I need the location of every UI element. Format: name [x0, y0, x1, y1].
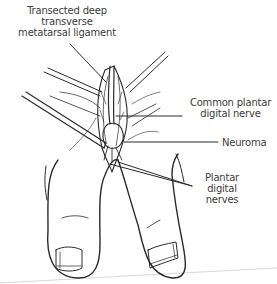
label-line: nerves — [196, 194, 248, 205]
leader-line-ligament — [70, 44, 106, 82]
label-line: Neuroma — [222, 137, 277, 148]
incision-wound — [98, 66, 127, 172]
skin-contour — [128, 131, 158, 140]
skin-contour — [132, 92, 160, 104]
label-plantar-digital-nerves: Plantar digital nerves — [196, 172, 248, 205]
label-line: transverse — [4, 16, 130, 27]
right-retractor — [126, 52, 168, 126]
label-line: Plantar — [196, 172, 248, 183]
leader-line-plantar-nerves — [118, 162, 192, 186]
label-transected-ligament: Transected deep transverse metatarsal li… — [4, 5, 130, 38]
label-line: Transected deep — [4, 5, 130, 16]
label-line: Common plantar — [184, 97, 277, 108]
label-line: metatarsal ligament — [4, 27, 130, 38]
ground-shadow-line — [0, 268, 277, 283]
left-toe — [45, 160, 118, 279]
label-common-plantar-digital-nerve: Common plantar digital nerve — [184, 97, 277, 119]
label-line: digital nerve — [184, 108, 277, 119]
left-retractor — [22, 68, 106, 148]
label-line: digital — [196, 183, 248, 194]
label-neuroma: Neuroma — [222, 137, 277, 148]
skin-contour — [60, 92, 100, 108]
